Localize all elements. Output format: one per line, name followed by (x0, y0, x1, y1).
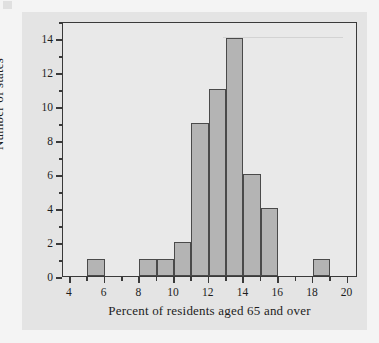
x-axis-tick (138, 277, 140, 283)
scan-artifact (3, 1, 12, 9)
plot-area (62, 22, 357, 277)
x-axis-minor-tick (121, 277, 123, 281)
histogram-bar (313, 259, 330, 276)
x-axis-title: Percent of residents aged 65 and over (62, 303, 357, 319)
y-axis-tick-label: 6 (47, 169, 53, 181)
y-axis-tick (56, 39, 62, 41)
histogram-bar (87, 259, 104, 276)
x-axis-minor-tick (260, 277, 262, 281)
x-axis-minor-tick (329, 277, 331, 281)
x-axis-tick-label: 8 (135, 286, 141, 298)
x-axis-minor-tick (225, 277, 227, 281)
x-axis-tick-label: 10 (167, 286, 179, 298)
y-axis-tick (56, 141, 62, 143)
x-axis-tick-label: 16 (271, 286, 283, 298)
x-axis-tick (277, 277, 279, 283)
x-axis-tick-label: 18 (306, 286, 318, 298)
histogram-bar (209, 89, 226, 276)
y-axis-minor-tick (59, 158, 63, 160)
bars-layer (63, 23, 356, 276)
y-axis-minor-tick (59, 56, 63, 58)
y-axis-tick (56, 175, 62, 177)
histogram-bar (261, 208, 278, 276)
y-axis-tick-label: 12 (42, 67, 54, 79)
histogram-bar (191, 123, 208, 276)
x-axis-minor-tick (156, 277, 158, 281)
y-axis-tick-label: 4 (47, 203, 53, 215)
x-axis-tick (312, 277, 314, 283)
x-axis-tick (104, 277, 106, 283)
x-axis-minor-tick (86, 277, 88, 281)
x-axis-tick (208, 277, 210, 283)
x-axis-tick-label: 12 (202, 286, 214, 298)
y-axis-minor-tick (59, 260, 63, 262)
y-axis-tick (56, 277, 62, 279)
histogram-bar (157, 259, 174, 276)
y-axis-tick-label: 14 (42, 33, 54, 45)
histogram-bar (174, 242, 191, 276)
y-axis-minor-tick (59, 124, 63, 126)
y-axis-tick (56, 107, 62, 109)
x-axis-tick (173, 277, 175, 283)
histogram-bar (139, 259, 156, 276)
y-axis-minor-tick (59, 226, 63, 228)
x-axis-tick (347, 277, 349, 283)
histogram-figure: 02468101214 Number of states 46810121416… (0, 0, 379, 343)
y-axis-title: Number of states (0, 58, 7, 150)
x-axis-tick-label: 20 (341, 286, 353, 298)
x-axis-tick-label: 4 (66, 286, 72, 298)
histogram-bar (243, 174, 260, 276)
x-axis-minor-tick (190, 277, 192, 281)
y-axis-tick-label: 8 (47, 135, 53, 147)
histogram-bar (226, 38, 243, 276)
y-axis-tick (56, 209, 62, 211)
x-axis-tick-label: 6 (101, 286, 107, 298)
y-axis-tick (56, 243, 62, 245)
y-axis-tick-label: 10 (42, 101, 54, 113)
x-axis-tick (242, 277, 244, 283)
y-axis-tick-label: 2 (47, 237, 53, 249)
x-axis-minor-tick (295, 277, 297, 281)
y-axis-minor-tick (59, 192, 63, 194)
x-axis-tick (69, 277, 71, 283)
y-axis-tick-label: 0 (47, 271, 53, 283)
y-axis-minor-tick (59, 90, 63, 92)
x-axis-tick-label: 14 (237, 286, 249, 298)
y-axis-minor-tick (59, 22, 63, 24)
y-axis-tick (56, 73, 62, 75)
